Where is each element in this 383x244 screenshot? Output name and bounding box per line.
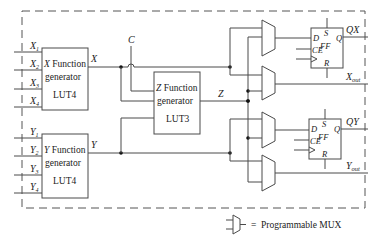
svg-text:X3: X3 — [29, 77, 39, 89]
svg-text:R: R — [321, 149, 328, 159]
svg-text:Y2: Y2 — [30, 144, 39, 156]
svg-text:LUT3: LUT3 — [166, 114, 189, 124]
svg-text:Z Function: Z Function — [156, 83, 198, 93]
svg-text:Y4: Y4 — [30, 181, 39, 193]
svg-text:X2: X2 — [29, 58, 39, 70]
svg-text:generator: generator — [45, 72, 82, 82]
svg-text:Z: Z — [218, 88, 224, 99]
clb-diagram: X1 X2 X3 X4 X Function generator LUT4 Y1… — [0, 0, 383, 244]
svg-text:CE: CE — [310, 136, 322, 146]
svg-text:Xout: Xout — [345, 71, 361, 83]
svg-text:X: X — [90, 53, 98, 64]
z-signal-wires: Z — [200, 37, 262, 182]
mux-qy — [262, 112, 309, 148]
svg-text:D: D — [310, 124, 318, 134]
svg-text:Q: Q — [334, 124, 340, 134]
x-function-generator: X Function generator LUT4 — [42, 48, 88, 110]
legend-label: Programmable MUX — [261, 220, 342, 230]
svg-text:QX: QX — [346, 24, 360, 35]
c-input: C — [128, 34, 154, 91]
svg-text:X Function: X Function — [43, 59, 86, 69]
y-function-generator: Y Function generator LUT4 — [42, 134, 88, 198]
mux-legend-icon — [233, 215, 240, 234]
svg-text:generator: generator — [157, 96, 194, 106]
svg-text:X4: X4 — [29, 95, 39, 107]
x-inputs: X1 X2 X3 X4 — [14, 40, 42, 107]
svg-text:Y Function: Y Function — [44, 145, 86, 155]
svg-text:generator: generator — [45, 158, 82, 168]
svg-text:D: D — [312, 33, 320, 43]
svg-text:=: = — [251, 220, 256, 230]
svg-text:X1: X1 — [29, 40, 39, 52]
output-labels: QX Xout QY Yout — [345, 24, 361, 172]
svg-text:C: C — [128, 34, 135, 45]
svg-text:Yout: Yout — [346, 160, 360, 172]
svg-text:LUT4: LUT4 — [53, 176, 76, 186]
y-inputs: Y1 Y2 Y3 Y4 — [14, 126, 42, 193]
svg-text:Y3: Y3 — [30, 163, 39, 175]
svg-text:LUT4: LUT4 — [53, 90, 76, 100]
z-function-generator: Z Function generator LUT3 — [154, 72, 200, 134]
legend: = Programmable MUX — [226, 215, 342, 234]
svg-text:CE: CE — [312, 45, 324, 55]
mux-yout — [262, 155, 368, 191]
mux-qx — [262, 20, 311, 56]
svg-text:R: R — [323, 58, 330, 68]
svg-text:QY: QY — [346, 116, 360, 127]
svg-text:Y: Y — [91, 139, 98, 150]
svg-text:Q: Q — [336, 33, 342, 43]
svg-text:Y1: Y1 — [30, 126, 39, 138]
